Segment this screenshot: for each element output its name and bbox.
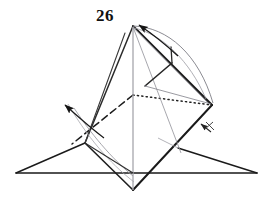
left-flap-inner-fold xyxy=(85,143,133,173)
step-number-label: 26 xyxy=(96,6,114,26)
body-edge-right-to-bottom xyxy=(133,105,212,190)
body-edge-left-to-bottom xyxy=(85,143,133,190)
lower-right-light-crease xyxy=(158,138,178,148)
body-edge-apex-to-left xyxy=(85,26,133,143)
origami-diagram-svg xyxy=(0,0,274,206)
inner-crease-horizontal xyxy=(145,63,172,86)
small-fold-arrow-with-tick xyxy=(201,122,214,132)
right-wing-upper-edge xyxy=(178,148,257,173)
fold-arrows xyxy=(65,25,214,138)
inner-thin-line-apex-to-lower-right xyxy=(133,27,181,153)
hidden-edge-dotted xyxy=(133,95,212,105)
inner-fold-left-to-apex xyxy=(85,33,125,143)
origami-diagram-figure: 26 xyxy=(0,0,274,206)
left-wing-upper-edge xyxy=(16,143,85,173)
small-fold-arrow-tick xyxy=(204,122,213,130)
model-silhouette xyxy=(16,26,257,190)
